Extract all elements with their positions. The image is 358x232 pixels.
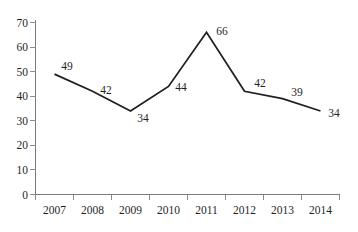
x-axis-label-2013: 2013 [271, 204, 294, 216]
y-axis-label-30: 30 [17, 115, 29, 127]
x-axis-label-2008: 2008 [81, 204, 104, 216]
y-axis-label-40: 40 [17, 90, 29, 102]
x-axis-label-2011: 2011 [195, 204, 218, 216]
chart-canvas: 70 60 50 40 30 20 10 0 2007 2008 2009 2 [0, 0, 358, 232]
line-chart: 70 60 50 40 30 20 10 0 2007 2008 2009 2 [0, 0, 358, 232]
x-axis-label-2009: 2009 [119, 204, 142, 216]
x-axis-label-2014: 2014 [309, 204, 332, 216]
point-label-2012: 42 [254, 77, 266, 89]
x-axis-label-2010: 2010 [157, 204, 180, 216]
point-label-2013: 39 [291, 86, 303, 98]
chart-background [0, 0, 358, 232]
point-label-2011: 66 [216, 25, 228, 37]
y-axis-label-70: 70 [17, 17, 29, 29]
y-axis-label-50: 50 [17, 66, 29, 78]
point-label-2008: 42 [100, 84, 112, 96]
point-label-2014: 34 [328, 107, 340, 119]
y-axis-label-0: 0 [22, 189, 28, 201]
y-axis-label-60: 60 [17, 41, 29, 53]
point-label-2007: 49 [61, 60, 73, 72]
x-axis-label-2012: 2012 [233, 204, 256, 216]
y-axis-label-20: 20 [17, 139, 29, 151]
x-axis-label-2007: 2007 [43, 204, 66, 216]
y-axis-label-10: 10 [17, 164, 29, 176]
point-label-2009: 34 [137, 112, 149, 124]
point-label-2010: 44 [175, 81, 187, 93]
